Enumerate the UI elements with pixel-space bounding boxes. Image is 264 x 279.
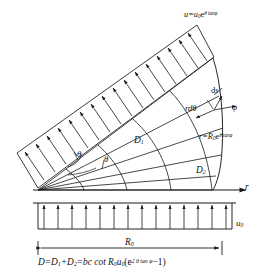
radial-line-0 bbox=[38, 58, 213, 190]
radial-line-3 bbox=[38, 155, 221, 190]
region-D1-label: D1 bbox=[134, 136, 144, 146]
r-axis-label: r bbox=[245, 183, 249, 192]
arc-2 bbox=[133, 119, 171, 190]
band-outer-edge bbox=[17, 25, 197, 153]
ds-label: ds bbox=[211, 86, 219, 95]
band-end-cap bbox=[197, 25, 214, 57]
band-start-cap bbox=[17, 153, 38, 188]
band-velocity-arrows bbox=[25, 33, 207, 180]
R0-label: R0 bbox=[125, 238, 134, 248]
theta-angle-inner-label: θ bbox=[77, 150, 81, 159]
uniform-load-block bbox=[33, 203, 236, 229]
log-spiral-boundary bbox=[213, 58, 223, 190]
region-D2-label: D2 bbox=[196, 166, 206, 176]
velocity-equation-label: u=u0eθ tanφ bbox=[184, 11, 217, 20]
u0-label: u0 bbox=[236, 219, 243, 229]
theta-angle-outer-label: θ bbox=[104, 155, 108, 164]
uniform-load-arrows bbox=[44, 205, 226, 229]
radial-line-2 bbox=[38, 128, 223, 190]
spiral-fan bbox=[213, 58, 223, 190]
radial-line-4 bbox=[38, 176, 216, 190]
rdtheta-label: rdθ bbox=[185, 104, 197, 113]
load-block-outline bbox=[38, 203, 232, 229]
rdtheta-arrow bbox=[196, 110, 214, 118]
phi-angle-label: φ bbox=[232, 103, 237, 112]
drag-equation-label: D=D1+D2=bc cot R0u0(e2 θ tan φ−1) bbox=[38, 258, 166, 268]
band-inner-edge bbox=[38, 57, 214, 188]
spiral-equation-label: r=R0eθ tanφ bbox=[199, 133, 232, 142]
